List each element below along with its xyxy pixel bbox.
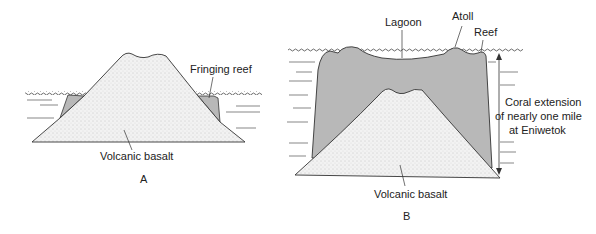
label-coral-extension-2: of nearly one mile: [495, 110, 582, 122]
label-volcanic-basalt-b: Volcanic basalt: [374, 188, 447, 200]
label-reef: Reef: [474, 26, 497, 38]
arrow-up-icon: [496, 53, 502, 60]
label-coral-extension-3: at Eniwetok: [509, 124, 566, 136]
label-lagoon: Lagoon: [385, 16, 422, 28]
label-coral-extension-1: Coral extension: [505, 96, 581, 108]
label-fringing-reef: Fringing reef: [190, 63, 252, 75]
water-lines-b-left: [287, 62, 315, 156]
panel-label-b: B: [403, 210, 410, 222]
label-atoll: Atoll: [452, 10, 473, 22]
water-surface-b: [288, 48, 523, 52]
label-volcanic-basalt-a: Volcanic basalt: [100, 150, 173, 162]
panel-label-a: A: [140, 173, 147, 185]
diagram-b: [287, 26, 523, 186]
water-lines-a-left: [27, 100, 58, 118]
water-lines-a-right: [226, 106, 260, 128]
leader-atoll: [455, 26, 462, 47]
